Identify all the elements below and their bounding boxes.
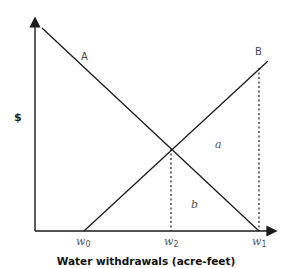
region-b-label: b [191, 198, 198, 211]
curve-a-label: A [81, 51, 88, 62]
curve-b [84, 61, 268, 231]
region-a-label: a [215, 138, 222, 151]
curve-a [42, 28, 259, 231]
curve-b-label: B [255, 46, 262, 57]
x-axis-title: Water withdrawals (acre-feet) [57, 255, 236, 267]
tick-w0: w0 [76, 235, 91, 249]
y-axis-label: $ [14, 111, 22, 124]
tick-w2: w2 [164, 235, 179, 249]
tick-w1: w1 [252, 235, 267, 249]
supply-demand-diagram: A B a b $ w0 w2 w1 Water withdrawals (ac… [0, 0, 291, 268]
